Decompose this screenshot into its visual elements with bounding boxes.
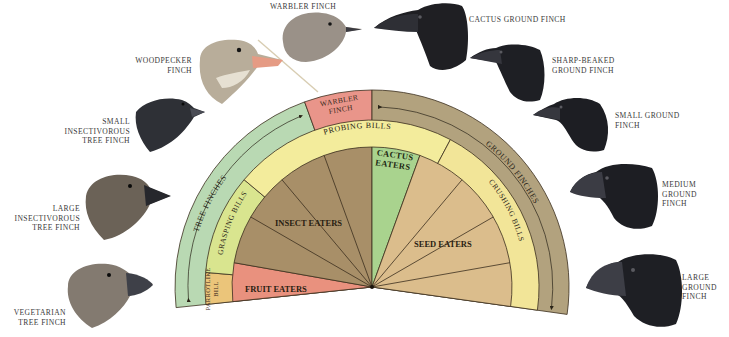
small-insectivorous-tree-finch-label: SMALL INSECTIVOROUS TREE FINCH — [40, 117, 130, 146]
sharp-beaked-ground-finch-head-icon — [470, 44, 545, 101]
warbler-finch-head-icon — [283, 13, 362, 62]
vegetarian-tree-finch-head-icon — [68, 264, 153, 328]
woodpecker-finch-head-icon — [200, 40, 283, 104]
small-ground-finch-head-icon — [533, 98, 608, 152]
svg-text:PARROTLIKE: PARROTLIKE — [204, 268, 211, 311]
vegetarian-tree-finch-label: VEGETARIAN TREE FINCH — [0, 308, 66, 327]
small-insectivorous-tree-finch-head-icon — [136, 99, 205, 153]
woodpecker-finch-label: WOODPECKER FINCH — [110, 56, 192, 75]
large-insectivorous-tree-finch-label: LARGE INSECTIVOROUS TREE FINCH — [0, 204, 80, 233]
warbler-finch-label: WARBLER FINCH — [248, 2, 358, 12]
large-ground-finch-head-icon — [586, 254, 682, 327]
medium-ground-finch-label: MEDIUM GROUND FINCH — [662, 180, 697, 209]
svg-text:BILL: BILL — [212, 281, 219, 297]
beak-diet-fan-chart: TREE FINCHES GROUND FINCHES PROBING BILL… — [0, 0, 729, 337]
large-insectivorous-tree-finch-head-icon — [86, 175, 171, 240]
small-ground-finch-label: SMALL GROUND FINCH — [615, 111, 680, 130]
large-ground-finch-label: LARGE GROUND FINCH — [682, 273, 717, 302]
seed-eaters-label: SEED EATERS — [414, 239, 472, 249]
finch-diagram: TREE FINCHES GROUND FINCHES PROBING BILL… — [0, 0, 729, 337]
fruit-eaters-label: FRUIT EATERS — [245, 284, 307, 294]
cactus-ground-finch-label: CACTUS GROUND FINCH — [469, 15, 566, 25]
cactus-ground-finch-head-icon — [374, 3, 468, 70]
medium-ground-finch-head-icon — [570, 164, 658, 229]
insect-eaters-label: INSECT EATERS — [275, 218, 342, 228]
sharp-beaked-ground-finch-label: SHARP-BEAKED GROUND FINCH — [552, 56, 615, 75]
